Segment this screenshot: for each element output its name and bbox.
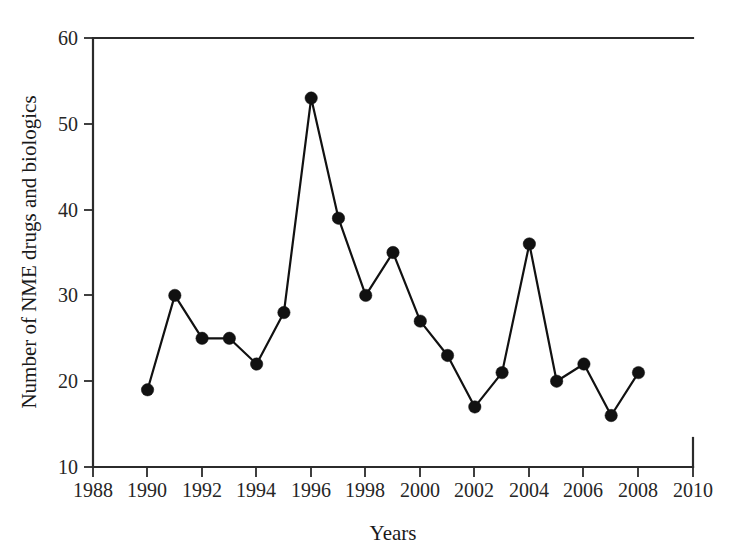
data-point-2002	[469, 401, 481, 413]
x-tick-label-1994: 1994	[236, 479, 276, 501]
x-tick-label-2010: 2010	[673, 479, 713, 501]
data-point-2005	[550, 375, 562, 387]
data-point-2004	[523, 238, 535, 250]
data-point-1990	[141, 384, 153, 396]
data-point-2001	[441, 349, 453, 361]
x-tick-label-1990: 1990	[127, 479, 167, 501]
data-point-2000	[414, 315, 426, 327]
y-axis-ticks	[84, 38, 93, 467]
x-tick-label-1998: 1998	[345, 479, 385, 501]
y-axis-title: Number of NME drugs and biologics	[17, 95, 41, 408]
x-tick-label-1996: 1996	[291, 479, 331, 501]
x-tick-label-2008: 2008	[618, 479, 658, 501]
x-tick-label-2004: 2004	[509, 479, 549, 501]
data-point-1992	[196, 332, 208, 344]
y-tick-label-40: 40	[58, 199, 78, 221]
y-tick-label-10: 10	[58, 456, 78, 478]
data-point-1994	[250, 358, 262, 370]
y-tick-label-20: 20	[58, 370, 78, 392]
y-tick-label-50: 50	[58, 113, 78, 135]
data-point-2003	[496, 366, 508, 378]
x-tick-label-2006: 2006	[563, 479, 603, 501]
y-tick-label-60: 60	[58, 27, 78, 49]
data-point-1996	[305, 92, 317, 104]
data-point-1997	[332, 212, 344, 224]
line-chart: 10 20 30 40 50 60 1988 1990 1992	[0, 0, 737, 559]
data-point-2007	[605, 409, 617, 421]
y-tick-label-30: 30	[58, 284, 78, 306]
data-point-2006	[578, 358, 590, 370]
x-axis-ticks	[93, 467, 693, 477]
x-axis-tick-labels: 1988 1990 1992 1994 1996 1998 2000 2002 …	[73, 479, 713, 501]
data-point-1998	[360, 289, 372, 301]
data-point-1993	[223, 332, 235, 344]
data-point-1999	[387, 246, 399, 258]
x-tick-label-2002: 2002	[454, 479, 494, 501]
y-axis-tick-labels: 10 20 30 40 50 60	[58, 27, 78, 478]
x-tick-label-2000: 2000	[400, 479, 440, 501]
chart-figure: 10 20 30 40 50 60 1988 1990 1992	[0, 0, 737, 559]
data-point-1991	[169, 289, 181, 301]
x-tick-label-1992: 1992	[182, 479, 222, 501]
data-point-2008	[632, 366, 644, 378]
x-axis-title: Years	[370, 521, 417, 545]
data-point-1995	[278, 306, 290, 318]
x-tick-label-1988: 1988	[73, 479, 113, 501]
